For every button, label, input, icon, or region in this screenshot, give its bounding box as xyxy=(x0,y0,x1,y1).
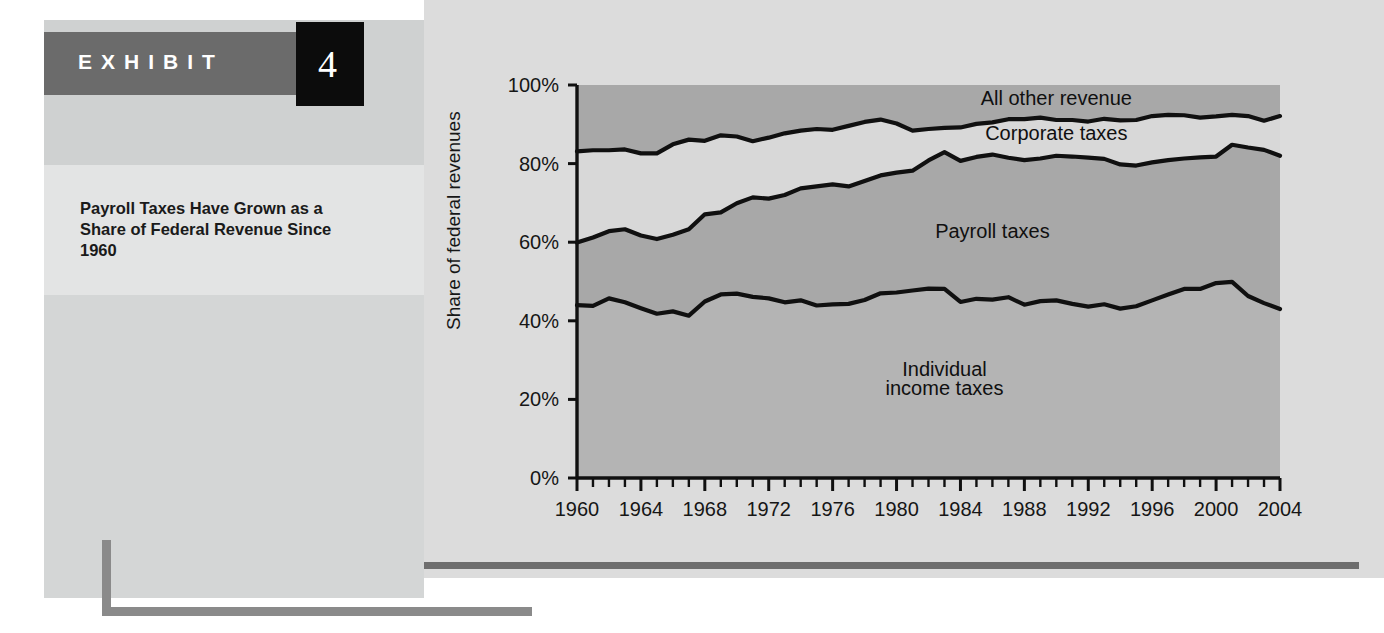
x-tick-label: 1968 xyxy=(683,498,728,520)
exhibit-band-bottom xyxy=(44,295,424,598)
y-tick-label: 40% xyxy=(519,310,559,332)
page-title: Payroll Taxes Have Grown as a Share of F… xyxy=(80,198,370,261)
corner-rule-vertical xyxy=(102,540,111,616)
x-tick-label: 1972 xyxy=(746,498,791,520)
x-tick-label: 1984 xyxy=(938,498,983,520)
x-tick-label: 2004 xyxy=(1258,498,1303,520)
chart-bottom-rule xyxy=(424,562,1359,569)
x-tick-label: 1960 xyxy=(555,498,600,520)
x-tick-label: 1988 xyxy=(1002,498,1047,520)
page-root: EXHIBIT 4 Payroll Taxes Have Grown as a … xyxy=(0,0,1384,633)
x-tick-label: 1996 xyxy=(1130,498,1175,520)
corner-rule-horizontal xyxy=(102,607,532,616)
series-annotation: All other revenue xyxy=(981,87,1132,109)
series-annotation: income taxes xyxy=(886,377,1004,399)
x-tick-label: 1992 xyxy=(1066,498,1111,520)
x-tick-label: 1964 xyxy=(619,498,664,520)
x-tick-label: 1980 xyxy=(874,498,919,520)
x-axis-tick-labels: 1960196419681972197619801984198819921996… xyxy=(555,498,1303,520)
y-axis-title: Share of federal revenues xyxy=(443,111,464,330)
chart-container: 0%20%40%60%80%100% 196019641968197219761… xyxy=(424,0,1384,578)
exhibit-label: EXHIBIT xyxy=(78,50,224,74)
y-tick-label: 60% xyxy=(519,231,559,253)
y-tick-label: 0% xyxy=(530,467,559,489)
series-annotation: Payroll taxes xyxy=(935,220,1050,242)
chart-areas xyxy=(577,85,1280,478)
series-annotation: Corporate taxes xyxy=(985,122,1127,144)
x-tick-label: 1976 xyxy=(810,498,855,520)
exhibit-number: 4 xyxy=(318,42,337,86)
y-tick-label: 100% xyxy=(508,74,559,96)
stacked-area-chart: 0%20%40%60%80%100% 196019641968197219761… xyxy=(424,0,1384,578)
y-axis-tick-labels: 0%20%40%60%80%100% xyxy=(508,74,559,489)
exhibit-card: EXHIBIT 4 Payroll Taxes Have Grown as a … xyxy=(44,20,424,590)
y-tick-label: 80% xyxy=(519,153,559,175)
x-tick-label: 2000 xyxy=(1194,498,1239,520)
y-tick-label: 20% xyxy=(519,388,559,410)
